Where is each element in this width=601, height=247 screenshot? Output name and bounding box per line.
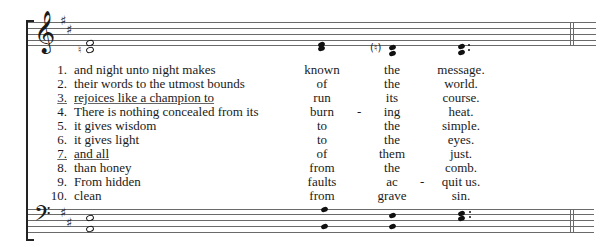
verse-word-3: course. xyxy=(431,91,491,105)
verse-row: 1.and night unto night makesknownthemess… xyxy=(0,63,601,77)
verse-row: 7.and allofthemjust. xyxy=(0,147,601,161)
quarter-note xyxy=(320,223,328,230)
verse-text: clean xyxy=(74,189,101,203)
verse-text: There is nothing concealed from its xyxy=(74,105,258,119)
verse-word-1: of xyxy=(292,77,352,91)
verse-word-2: grave xyxy=(362,189,422,203)
bass-clef-icon: 𝄢 xyxy=(34,203,51,229)
verse-word-2: ing xyxy=(362,105,422,119)
quarter-note xyxy=(388,212,396,219)
quarter-note xyxy=(317,45,325,52)
verse-number: 4. xyxy=(37,105,67,119)
verse-number: 7. xyxy=(37,147,67,161)
verse-word-1: of xyxy=(292,147,352,161)
verse-text: it gives light xyxy=(74,133,139,147)
quarter-note xyxy=(320,206,328,213)
verse-word-3: simple. xyxy=(431,119,491,133)
verse-row: 9.From hiddenfaultsac-quit us. xyxy=(0,175,601,189)
verse-row: 8.than honeyfromthecomb. xyxy=(0,161,601,175)
bracketed-natural-icon: (♮) xyxy=(370,42,381,53)
augmentation-dot xyxy=(468,49,470,51)
verse-word-2: the xyxy=(362,161,422,175)
verse-text: and night unto night makes xyxy=(74,63,216,77)
sharp-c-icon: ♯ xyxy=(66,216,72,229)
verse-word-2: the xyxy=(362,133,422,147)
final-barline-bass xyxy=(570,209,571,233)
verse-word-3: eyes. xyxy=(431,133,491,147)
verse-text: From hidden xyxy=(74,175,141,189)
verse-word-3: comb. xyxy=(431,161,491,175)
dotted-note xyxy=(457,49,465,56)
final-barline-treble xyxy=(570,22,571,46)
verse-word-2: the xyxy=(362,63,422,77)
verse-text: and all xyxy=(74,147,109,161)
verse-word-1: to xyxy=(292,133,352,147)
quarter-note xyxy=(388,223,396,230)
verse-number: 9. xyxy=(37,175,67,189)
verse-row: 3.rejoices like a champion torunitscours… xyxy=(0,91,601,105)
verse-row: 10.cleanfromgravesin. xyxy=(0,189,601,203)
verse-word-3: quit us. xyxy=(431,175,491,189)
verse-number: 3. xyxy=(37,91,67,105)
sharp-c-icon: ♯ xyxy=(66,23,72,36)
verse-text: rejoices like a champion to xyxy=(74,91,214,105)
verse-text: than honey xyxy=(74,161,131,175)
half-note xyxy=(85,46,95,54)
verse-text: it gives wisdom xyxy=(74,119,156,133)
verse-number: 8. xyxy=(37,161,67,175)
verse-word-1: burn xyxy=(292,105,352,119)
verse-number: 6. xyxy=(37,133,67,147)
quarter-note xyxy=(388,50,396,57)
final-barline-bass-2 xyxy=(573,209,574,233)
verse-word-3: message. xyxy=(431,63,491,77)
verse-word-2: the xyxy=(362,119,422,133)
verse-word-3: heat. xyxy=(431,105,491,119)
augmentation-dot xyxy=(469,216,471,218)
verse-word-2: its xyxy=(362,91,422,105)
verse-text: their words to the utmost bounds xyxy=(74,77,245,91)
treble-clef-icon: 𝄞 xyxy=(34,14,55,50)
verse-word-1: from xyxy=(292,161,352,175)
hyphen: - xyxy=(357,105,361,119)
verse-word-3: sin. xyxy=(431,189,491,203)
verse-row: 6.it gives lighttotheeyes. xyxy=(0,133,601,147)
verse-row: 5.it gives wisdomtothesimple. xyxy=(0,119,601,133)
verse-word-2: them xyxy=(362,147,422,161)
verse-word-1: run xyxy=(292,91,352,105)
verse-word-1: from xyxy=(292,189,352,203)
natural-icon: ♮ xyxy=(78,44,82,55)
system-bracket-bottom-hook xyxy=(26,239,34,241)
augmentation-dot xyxy=(468,44,470,46)
verse-word-1: known xyxy=(292,63,352,77)
verse-word-3: just. xyxy=(431,147,491,161)
verse-number: 2. xyxy=(37,77,67,91)
verse-number: 1. xyxy=(37,63,67,77)
verse-word-3: world. xyxy=(431,77,491,91)
verse-row: 2.their words to the utmost boundsofthew… xyxy=(0,77,601,91)
hyphen: - xyxy=(420,175,424,189)
verse-word-1: to xyxy=(292,119,352,133)
final-barline-treble-2 xyxy=(573,22,574,46)
verse-word-2: the xyxy=(362,77,422,91)
verse-number: 5. xyxy=(37,119,67,133)
verse-word-1: faults xyxy=(292,175,352,189)
verse-word-2: ac xyxy=(362,175,422,189)
augmentation-dot xyxy=(469,211,471,213)
verse-row: 4.There is nothing concealed from itsbur… xyxy=(0,105,601,119)
